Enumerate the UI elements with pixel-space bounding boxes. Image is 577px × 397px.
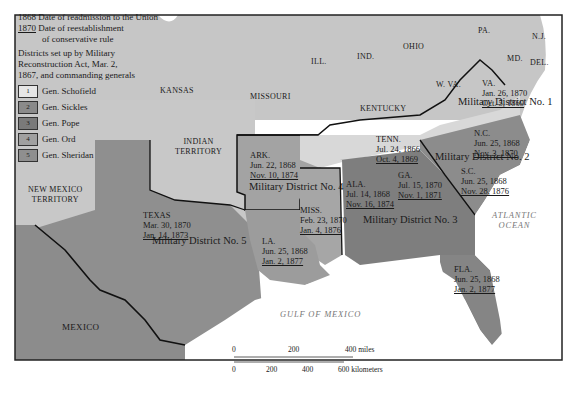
state-sc: S.C.Jun. 25, 1868Nov. 28, 1876 bbox=[461, 166, 509, 196]
legend-general-5: Gen. Sheridan bbox=[42, 150, 94, 161]
label-new-mexico-territory: NEW MEXICOTERRITORY bbox=[28, 185, 83, 205]
legend: 1868 Date of readmission to the Union 18… bbox=[18, 12, 158, 165]
legend-readmission-year: 1868 bbox=[18, 12, 36, 22]
legend-conservative-text-1: Date of reestablishment bbox=[38, 23, 123, 33]
legend-districts-text-3: 1867, and commanding generals bbox=[18, 70, 158, 81]
state-ga: GA.Jul. 15, 1870Nov. 1, 1871 bbox=[398, 170, 442, 200]
label-ohio: OHIO bbox=[403, 42, 424, 52]
label-pa: PA. bbox=[478, 26, 490, 36]
legend-item-2: 2Gen. Sickles bbox=[18, 101, 158, 114]
label-atlantic-ocean: ATLANTICOCEAN bbox=[492, 210, 537, 230]
label-ind: IND. bbox=[357, 52, 374, 62]
legend-districts-text-1: Districts set up by Military bbox=[18, 48, 158, 59]
label-indian-territory: INDIANTERRITORY bbox=[175, 137, 222, 157]
legend-swatch-4: 4 bbox=[18, 133, 38, 146]
scale-km-400: 400 bbox=[302, 365, 313, 375]
scale-km-600: 600 kilometers bbox=[338, 365, 383, 375]
scale-miles-200: 200 bbox=[288, 345, 299, 355]
label-ill: ILL. bbox=[311, 57, 327, 67]
legend-swatch-5: 5 bbox=[18, 149, 38, 162]
state-fla: FLA.Jun. 25, 1868Jan. 2, 1877 bbox=[454, 264, 500, 294]
label-del: DEL. bbox=[530, 58, 549, 68]
scale-miles-0: 0 bbox=[232, 345, 236, 355]
legend-general-1: Gen. Schofield bbox=[42, 86, 96, 97]
legend-swatch-3: 3 bbox=[18, 117, 38, 130]
label-kentucky: KENTUCKY bbox=[360, 104, 406, 114]
scale-miles-400: 400 miles bbox=[345, 345, 374, 355]
label-missouri: MISSOURI bbox=[250, 92, 291, 102]
label-gulf-of-mexico: GULF OF MEXICO bbox=[280, 309, 361, 319]
scale-km-0: 0 bbox=[232, 365, 236, 375]
legend-general-2: Gen. Sickles bbox=[42, 102, 88, 113]
label-wva: W. VA. bbox=[436, 80, 461, 90]
label-district-4: Military District No. 4 bbox=[249, 182, 344, 192]
legend-item-5: 5Gen. Sheridan bbox=[18, 149, 158, 162]
state-ark: ARK.Jun. 22, 1868Nov. 10, 1874 bbox=[250, 150, 298, 180]
label-district-3: Military District No. 3 bbox=[363, 215, 458, 225]
legend-readmission-text: Date of readmission to the Union bbox=[38, 12, 158, 22]
label-mexico: MEXICO bbox=[62, 322, 99, 332]
label-district-5: Military District No. 5 bbox=[152, 236, 247, 246]
state-miss: MISS.Feb. 23, 1870Jan. 4, 1876 bbox=[300, 205, 347, 235]
label-nj: N.J. bbox=[532, 32, 546, 42]
label-md: MD. bbox=[507, 54, 523, 64]
legend-conservative-text-2: of conservative rule bbox=[18, 34, 158, 45]
state-tenn: TENN.Jul. 24, 1866Oct. 4, 1869 bbox=[376, 134, 420, 164]
legend-districts-text-2: Reconstruction Act, Mar. 2, bbox=[18, 59, 158, 70]
legend-general-4: Gen. Ord bbox=[42, 134, 76, 145]
label-district-1: Military District No. 1 bbox=[458, 97, 553, 107]
legend-item-4: 4Gen. Ord bbox=[18, 133, 158, 146]
label-kansas: KANSAS bbox=[160, 86, 194, 96]
legend-item-3: 3Gen. Pope bbox=[18, 117, 158, 130]
scale-km-200: 200 bbox=[266, 365, 277, 375]
legend-general-3: Gen. Pope bbox=[42, 118, 80, 129]
legend-conservative-year: 1870 bbox=[18, 23, 36, 33]
legend-swatch-2: 2 bbox=[18, 101, 38, 114]
legend-item-1: 1Gen. Schofield bbox=[18, 85, 158, 98]
label-district-2: Military District No. 2 bbox=[435, 152, 530, 162]
state-ala: ALA.Jul. 14, 1868Nov. 16, 1874 bbox=[346, 179, 394, 209]
state-la: LA.Jun. 25, 1868Jan. 2, 1877 bbox=[262, 236, 308, 266]
legend-swatch-1: 1 bbox=[18, 85, 38, 98]
